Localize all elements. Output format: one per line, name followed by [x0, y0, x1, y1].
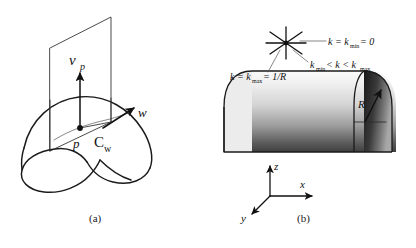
- label-point-p: p: [72, 136, 80, 151]
- annotation-k-min-tail: = 0: [360, 36, 374, 47]
- surface-point-star-icon: [266, 27, 306, 59]
- annotation-k-min-sub: min: [350, 43, 359, 49]
- label-normal-vector-subscript: p: [79, 61, 85, 72]
- annotation-k-max-sub: max: [252, 78, 262, 84]
- point-p-marker: [77, 125, 83, 131]
- surface-outline: [21, 97, 151, 193]
- annotation-k-between-left: k: [310, 59, 315, 70]
- annotation-k-between-right-sub: max: [360, 66, 370, 72]
- axis-label-z: z: [273, 160, 279, 172]
- annotation-k-min-text: k = k: [328, 36, 349, 47]
- label-normal-vector: ν: [69, 52, 76, 68]
- axis-label-y: y: [240, 212, 246, 224]
- annotation-k-min: k = k min = 0: [328, 36, 374, 49]
- axis-label-x: x: [299, 178, 305, 190]
- panel-a-diagram: ν p p C w w: [0, 0, 208, 248]
- leader-kmax: [268, 50, 280, 72]
- coordinate-axes: [252, 166, 312, 214]
- figure-root: ν p p C w w: [0, 0, 416, 248]
- label-curve-subscript: w: [104, 143, 112, 154]
- annotation-k-max-text: k = k: [230, 71, 251, 82]
- leader-kbetween: [293, 50, 308, 62]
- caption-panel-a: (a): [89, 212, 101, 224]
- label-tangent-w: w: [138, 105, 147, 120]
- label-radius-R: R: [357, 98, 365, 110]
- label-curve-c: C: [94, 134, 104, 150]
- annotation-k-between-mid: < k < k: [326, 59, 356, 70]
- annotation-k-between-left-sub: min: [316, 66, 325, 72]
- panel-b-diagram: k = k min = 0 k min < k < k max k = k ma…: [208, 0, 416, 248]
- annotation-k-max-tail: = 1/R: [263, 71, 286, 82]
- caption-panel-b: (b): [297, 212, 310, 224]
